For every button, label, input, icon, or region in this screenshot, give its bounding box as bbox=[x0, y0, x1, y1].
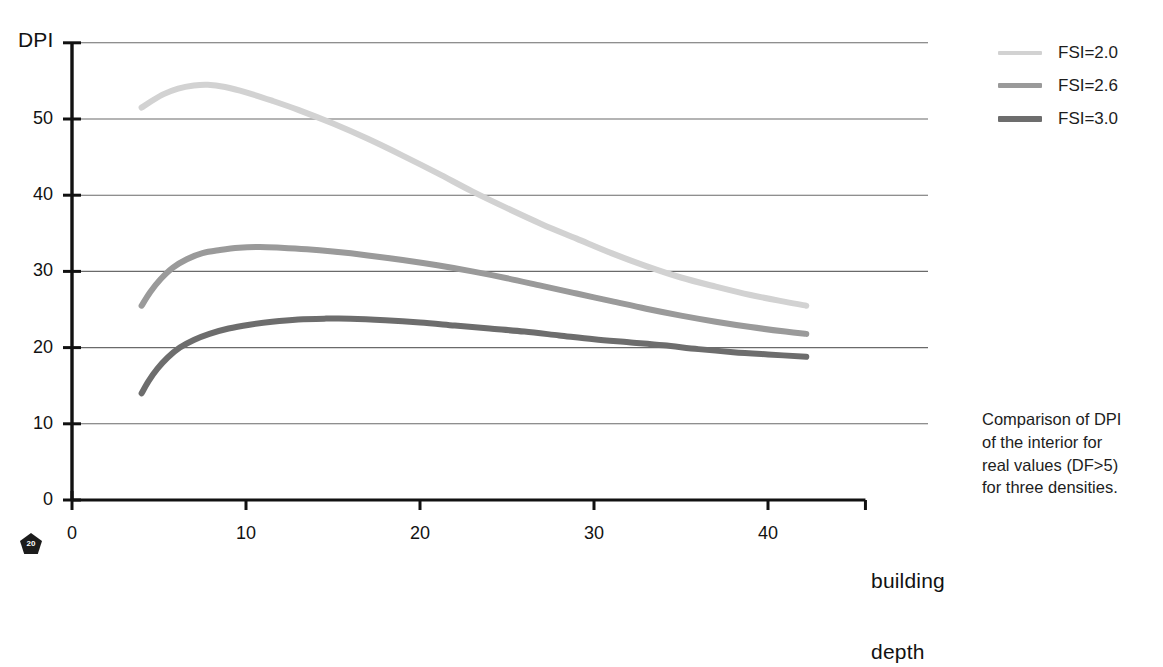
x-tick-label: 30 bbox=[574, 523, 614, 544]
caption-line-3: real values (DF>5) bbox=[982, 454, 1157, 477]
caption-line-2: of the interior for bbox=[982, 431, 1157, 454]
y-tick-label: 10 bbox=[13, 413, 53, 434]
x-tick-label: 10 bbox=[226, 523, 266, 544]
legend-swatch-icon bbox=[998, 51, 1042, 55]
figure-caption: Comparison of DPI of the interior for re… bbox=[982, 408, 1157, 499]
chart-canvas bbox=[0, 0, 960, 600]
y-axis-title: DPI bbox=[18, 28, 54, 52]
plot-area bbox=[0, 0, 960, 600]
x-tick-label: 20 bbox=[400, 523, 440, 544]
y-tick-label: 50 bbox=[13, 108, 53, 129]
legend-item: FSI=3.0 bbox=[998, 102, 1158, 135]
x-axis-title-line1: building bbox=[871, 569, 945, 593]
legend-item: FSI=2.0 bbox=[998, 36, 1158, 69]
y-tick-label: 0 bbox=[13, 489, 53, 510]
series-line-3 bbox=[142, 318, 807, 393]
legend-swatch-icon bbox=[998, 116, 1042, 122]
x-tick-label: 0 bbox=[52, 523, 92, 544]
y-tick-label: 30 bbox=[13, 260, 53, 281]
legend-item: FSI=2.6 bbox=[998, 69, 1158, 102]
legend-swatch-icon bbox=[998, 83, 1042, 88]
caption-line-4: for three densities. bbox=[982, 476, 1157, 499]
caption-line-1: Comparison of DPI bbox=[982, 408, 1157, 431]
x-tick-label: 40 bbox=[748, 523, 788, 544]
legend-label: FSI=2.6 bbox=[1058, 76, 1118, 96]
legend-label: FSI=2.0 bbox=[1058, 43, 1118, 63]
x-axis-title: building depth bbox=[871, 522, 945, 667]
series-line-2 bbox=[142, 247, 807, 334]
chart-legend: FSI=2.0FSI=2.6FSI=3.0 bbox=[998, 36, 1158, 135]
y-tick-label: 40 bbox=[13, 184, 53, 205]
x-axis-title-line2: depth bbox=[871, 640, 945, 664]
legend-label: FSI=3.0 bbox=[1058, 109, 1118, 129]
y-tick-label: 20 bbox=[13, 337, 53, 358]
